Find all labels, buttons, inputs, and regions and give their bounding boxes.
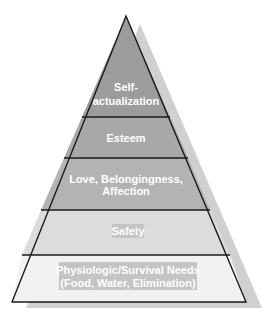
- maslow-pyramid: Self-actualization Esteem Love, Belongin…: [0, 0, 268, 316]
- label-esteem: Esteem: [106, 132, 145, 144]
- label-safety: Safety: [111, 225, 145, 237]
- label-physiologic: Physiologic/Survival Needs(Food, Water, …: [56, 264, 200, 289]
